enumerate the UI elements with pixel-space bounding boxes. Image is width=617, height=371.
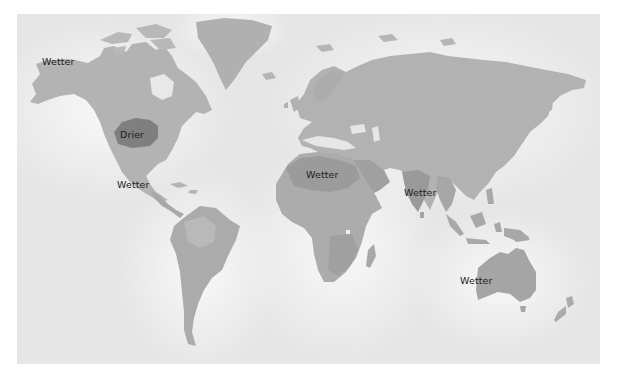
label-wetter-alaska: Wetter [42,57,74,67]
world-map: Wetter Drier Wetter Wetter Wetter Wetter [17,14,600,364]
lake-victoria [346,230,350,234]
label-wetter-india: Wetter [404,188,436,198]
world-map-graphic [17,14,600,364]
cropped-caption [0,0,617,3]
sri-lanka [420,212,424,218]
label-wetter-north-africa: Wetter [306,170,338,180]
label-drier-us: Drier [120,130,144,140]
label-wetter-australia: Wetter [460,276,492,286]
tasmania [520,306,526,312]
label-wetter-central-america: Wetter [117,180,149,190]
